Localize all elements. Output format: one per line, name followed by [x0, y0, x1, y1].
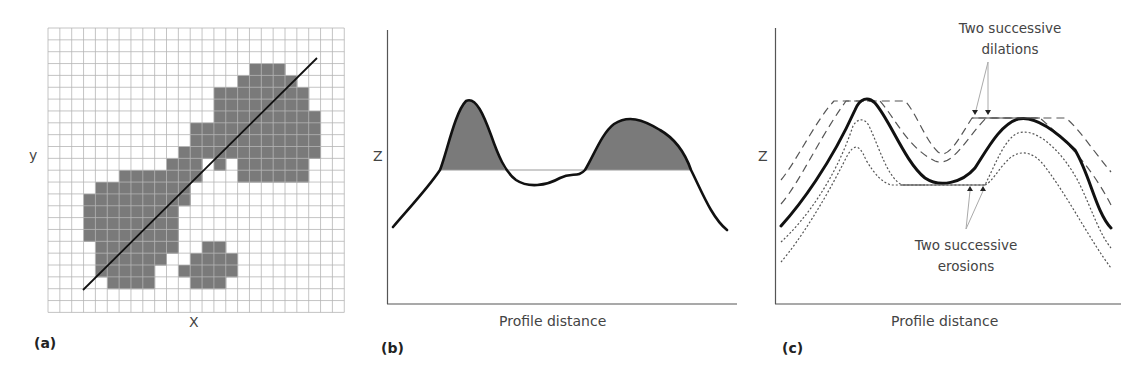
panel-tag-c: (c) — [782, 340, 803, 356]
z-axis-label: Z — [758, 148, 768, 164]
erosion-arrowhead-2 — [980, 186, 986, 191]
x-axis-label: Profile distance — [891, 313, 998, 329]
erosion-pointer-2 — [966, 191, 983, 229]
dilation-pointer-1 — [976, 62, 988, 110]
dilation-arrowhead-2 — [985, 110, 991, 115]
panel-c: Z Two successive dilations Two successiv… — [0, 0, 1146, 373]
dilation-2-curve — [781, 101, 1111, 180]
dilation-arrowhead-1 — [972, 110, 978, 115]
erosions-annotation: Two successive erosions — [901, 235, 1031, 277]
erosion-pointer-1 — [966, 191, 970, 229]
erosion-arrowhead-1 — [967, 186, 973, 191]
dilations-annotation: Two successive dilations — [945, 18, 1075, 60]
